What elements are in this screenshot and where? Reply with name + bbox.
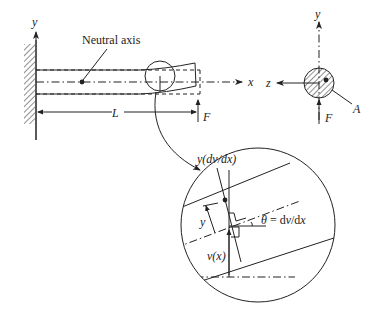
- magnify-arrow: [155, 92, 200, 170]
- magnified-detail: θ = dv/dx y v(x) y(dv/dx): [170, 148, 340, 302]
- beam-force-label: F: [202, 110, 211, 124]
- length-dimension: L: [38, 106, 196, 120]
- theta-label: θ = dv/dx: [261, 213, 306, 227]
- area-label: A: [352, 102, 361, 116]
- x-axis-label: x: [247, 75, 254, 89]
- cross-section: y z A F: [265, 7, 361, 125]
- neutral-axis-point: [80, 80, 85, 85]
- length-label: L: [111, 106, 119, 120]
- beam-y-label: y: [31, 15, 38, 29]
- fixed-wall: [24, 40, 36, 140]
- section-y-label: y: [314, 7, 321, 21]
- section-force-label: F: [324, 111, 333, 125]
- beam-diagram: y x Neutral axis L F y: [0, 0, 382, 311]
- beam-force: F: [198, 100, 211, 124]
- slope-offset-label: y(dv/dx): [196, 152, 236, 166]
- neutral-axis-callout: Neutral axis: [80, 33, 141, 84]
- detail-y-label: y: [199, 215, 206, 229]
- section-z-label: z: [265, 76, 271, 90]
- neutral-axis-label: Neutral axis: [82, 33, 141, 47]
- deflection-label: v(x): [207, 249, 226, 263]
